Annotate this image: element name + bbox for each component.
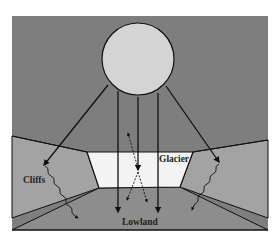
cliffs-label: Cliffs (23, 175, 45, 185)
glacier-radiation-diagram: Glacier Cliffs Lowland (0, 0, 280, 245)
glacier-label: Glacier (159, 154, 190, 164)
sun-icon (102, 23, 174, 95)
lowland-label: Lowland (122, 217, 159, 227)
